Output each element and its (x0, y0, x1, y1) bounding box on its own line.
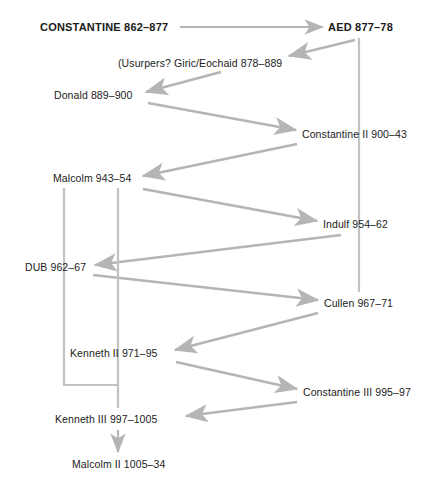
edge-constantine3-to-kenneth3 (186, 402, 297, 416)
node-cullen[interactable]: Cullen 967–71 (324, 297, 393, 309)
edge-aed-to-usurpers (289, 40, 355, 56)
edge-cullen-to-kenneth2 (175, 313, 318, 350)
edge-indulf-to-dub (95, 235, 341, 265)
node-kenneth2[interactable]: Kenneth II 971–95 (70, 347, 158, 359)
node-donald[interactable]: Donald 889–900 (54, 89, 132, 101)
node-constantine1[interactable]: CONSTANTINE 862–877 (40, 21, 168, 33)
node-malcolm2[interactable]: Malcolm II 1005–34 (72, 458, 165, 470)
node-malcolm[interactable]: Malcolm 943–54 (53, 172, 131, 184)
node-constantine2[interactable]: Constantine II 900–43 (302, 128, 407, 140)
edge-donald-to-constantine2 (148, 103, 296, 130)
node-constantine3[interactable]: Constantine III 995–97 (303, 386, 411, 398)
node-dub[interactable]: DUB 962–67 (25, 261, 86, 273)
node-usurpers[interactable]: (Usurpers? Giric/Eochaid 878–889 (118, 57, 282, 69)
edge-usurpers-to-donald (146, 72, 221, 92)
node-kenneth3[interactable]: Kenneth III 997–1005 (55, 413, 157, 425)
node-aed[interactable]: AED 877–78 (328, 21, 393, 33)
edge-kenneth2-to-constantine3 (176, 362, 297, 389)
succession-diagram: CONSTANTINE 862–877 AED 877–78 (Usurpers… (0, 0, 437, 492)
edge-malcolm-to-indulf (143, 189, 317, 221)
edge-constantine2-to-malcolm (143, 144, 297, 176)
node-indulf[interactable]: Indulf 954–62 (323, 218, 388, 230)
edge-dub-to-cullen (93, 275, 318, 300)
